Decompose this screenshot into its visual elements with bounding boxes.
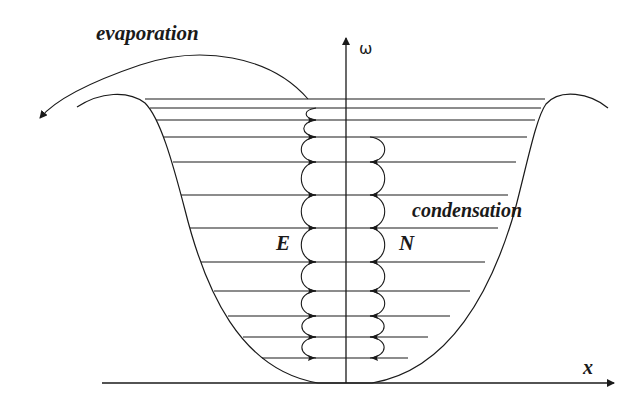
- evaporation-cascade-loops: [301, 108, 316, 361]
- e-cascade-loop: [301, 291, 316, 316]
- condensation-cascade-loops: [370, 137, 385, 361]
- evaporation-arrow: [40, 55, 308, 118]
- evaporation-label: evaporation: [96, 21, 199, 45]
- n-cascade-loop: [370, 316, 384, 337]
- e-cascade-loop: [301, 195, 316, 228]
- e-cascade-loop: [301, 137, 316, 162]
- e-cascade-loop: [304, 120, 316, 137]
- potential-well-diagram: evaporation condensation E N ω x: [0, 0, 639, 402]
- n-cascade-loop: [370, 337, 384, 358]
- n-cascade-loop: [370, 162, 385, 195]
- e-cascade-loop: [301, 162, 316, 195]
- n-cascade-loop: [370, 195, 385, 228]
- e-cascade-loop: [302, 316, 316, 337]
- e-cascade-arrowhead: [308, 355, 315, 361]
- n-label: N: [398, 231, 415, 255]
- n-cascade-loop: [370, 291, 385, 316]
- e-cascade-loop: [306, 108, 316, 120]
- e-cascade-loop: [301, 228, 316, 262]
- n-cascade-arrowhead: [371, 355, 378, 361]
- x-axis-label: x: [582, 356, 593, 378]
- e-cascade-loop: [301, 262, 316, 291]
- n-cascade-loop: [370, 137, 385, 162]
- n-cascade-loop: [370, 262, 385, 291]
- e-label: E: [275, 231, 290, 255]
- condensation-label: condensation: [412, 199, 522, 221]
- e-cascade-loop: [302, 337, 316, 358]
- energy-levels: [145, 99, 545, 358]
- n-cascade-loop: [370, 228, 385, 262]
- omega-axis-label: ω: [359, 39, 372, 58]
